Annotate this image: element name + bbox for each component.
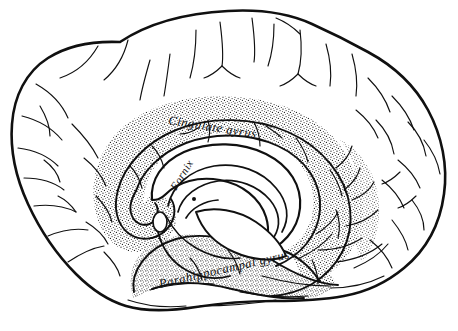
brain-diagram-svg: Cingulate gyrus Fornix Parahippocampal g…	[0, 0, 458, 331]
brain-illustration-figure: Cingulate gyrus Fornix Parahippocampal g…	[0, 0, 458, 331]
